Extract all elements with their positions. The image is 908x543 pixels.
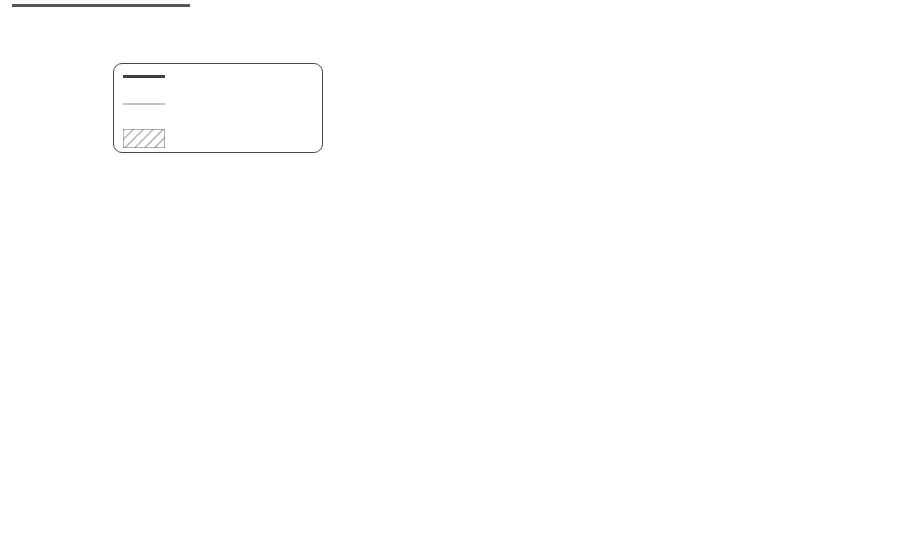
legend-item-imports[interactable] [123,96,175,124]
legend-item-exports[interactable] [123,68,175,96]
legend-item-trade-balance[interactable] [123,122,175,150]
trade-balance-hatch-swatch-icon [123,129,165,143]
chart-legend[interactable] [113,63,323,153]
chart-figure [0,0,908,543]
imports-line-swatch-icon [123,103,165,117]
exports-line-swatch-icon [123,75,165,89]
